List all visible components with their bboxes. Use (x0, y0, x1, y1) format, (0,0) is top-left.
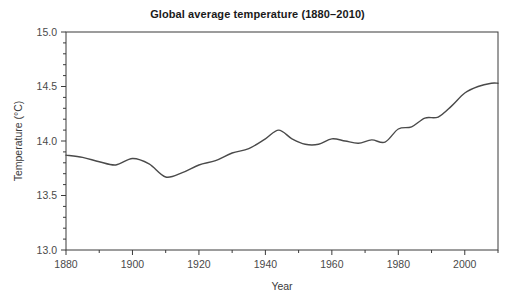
x-axis-tick-label: 1940 (254, 258, 278, 270)
chart-plot-area: 13.013.514.014.515.0 1880190019201940196… (0, 0, 515, 304)
y-axis-title: Temperature (°C) (12, 101, 24, 182)
y-axis-tick-label: 13.0 (37, 244, 58, 256)
x-axis-tick-label: 1960 (320, 258, 344, 270)
x-axis-tick-label: 1920 (187, 258, 211, 270)
x-axis-tick-label: 1880 (54, 258, 78, 270)
x-axis-ticks: 1880190019201940196019802000 (54, 250, 498, 270)
y-axis-tick-label: 14.5 (37, 80, 58, 92)
x-axis-title: Year (271, 280, 293, 292)
temperature-line (66, 83, 498, 177)
chart-figure: Global average temperature (1880–2010) 1… (0, 0, 515, 304)
y-axis-ticks: 13.013.514.014.515.0 (37, 26, 66, 256)
y-axis-tick-label: 14.0 (37, 135, 58, 147)
y-axis-tick-label: 13.5 (37, 189, 58, 201)
x-axis-tick-label: 1980 (387, 258, 411, 270)
y-axis-tick-label: 15.0 (37, 26, 58, 38)
x-axis-tick-label: 1900 (121, 258, 145, 270)
plot-frame-rect (66, 32, 498, 250)
plot-frame (66, 32, 498, 250)
data-series-lines (66, 83, 498, 177)
x-axis-tick-label: 2000 (453, 258, 477, 270)
